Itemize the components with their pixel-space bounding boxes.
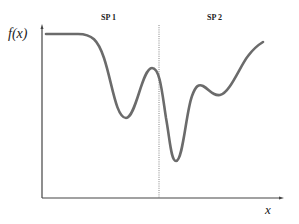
- y-axis-arrow-icon: [41, 24, 44, 29]
- region-label-sp2: SP 2: [207, 13, 222, 22]
- x-axis-label: x: [265, 202, 271, 218]
- plot-svg: [0, 0, 299, 224]
- x-axis-arrow-icon: [279, 197, 284, 200]
- function-curve: [46, 34, 263, 161]
- y-axis-label: f(x): [8, 26, 27, 42]
- region-label-sp1: SP 1: [101, 13, 116, 22]
- diagram-canvas: SP 1 SP 2 f(x) x: [0, 0, 299, 224]
